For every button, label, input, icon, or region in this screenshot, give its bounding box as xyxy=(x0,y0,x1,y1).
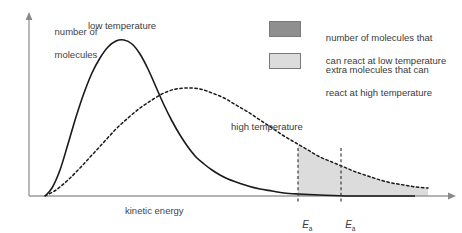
marker-label-ea-high-subscript: a xyxy=(352,225,356,232)
legend-item-dark-line1: number of molecules that xyxy=(326,32,433,43)
legend-swatch-light xyxy=(269,53,301,69)
y-axis-arrow-icon xyxy=(26,12,33,20)
legend-item-light-label: extra molecules that can react at high t… xyxy=(310,52,432,110)
x-axis-label: kinetic energy xyxy=(125,205,184,217)
marker-label-ea-low-symbol: E xyxy=(302,219,309,230)
marker-label-ea-high: Ea xyxy=(334,207,355,233)
marker-label-ea-high-symbol: E xyxy=(345,219,352,230)
curve-label-low-temperature: low temperature xyxy=(88,20,156,32)
x-axis-arrow-icon xyxy=(448,193,456,200)
y-axis xyxy=(26,12,33,196)
curve-label-high-temperature: high temperature xyxy=(231,121,303,133)
legend-item-light-line2: react at high temperature xyxy=(326,87,432,98)
marker-label-ea-low: Ea xyxy=(291,207,312,233)
legend-swatch-dark xyxy=(269,21,301,37)
legend-item-light-line1: extra molecules that can xyxy=(326,64,429,75)
y-axis-label-line2: molecules xyxy=(55,49,98,60)
marker-label-ea-low-subscript: a xyxy=(309,225,313,232)
chart-container: number of molecules kinetic energy low t… xyxy=(0,0,462,233)
